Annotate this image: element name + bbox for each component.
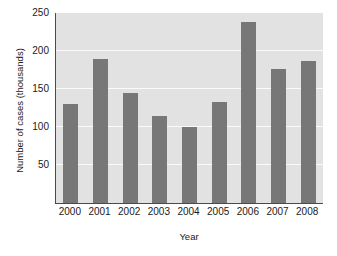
x-axis-tick-labels: 200020012002200320042005200620072008: [55, 206, 323, 222]
y-tick-label-100: 100: [32, 122, 49, 132]
bar-2003: [152, 116, 167, 203]
bar-2006: [241, 22, 256, 203]
x-tick-label-2006: 2006: [232, 206, 264, 217]
y-tick-label-150: 150: [32, 84, 49, 94]
x-tick-label-2001: 2001: [84, 206, 116, 217]
bar-2001: [93, 59, 108, 203]
y-tick-label-200: 200: [32, 46, 49, 56]
x-tick-label-2003: 2003: [143, 206, 175, 217]
x-tick-label-2007: 2007: [262, 206, 294, 217]
x-tick-label-2002: 2002: [113, 206, 145, 217]
bar-2008: [301, 61, 316, 203]
bar-2004: [182, 127, 197, 203]
bar-2002: [123, 93, 138, 203]
x-axis-title: Year: [55, 231, 323, 242]
gridline-200: [56, 50, 323, 51]
bar-2000: [63, 104, 78, 203]
x-tick-label-2000: 2000: [54, 206, 86, 217]
plot-area: [55, 13, 323, 204]
x-tick-label-2005: 2005: [202, 206, 234, 217]
x-tick-label-2008: 2008: [291, 206, 323, 217]
y-tick-label-250: 250: [32, 8, 49, 18]
bar-2007: [271, 69, 286, 203]
bar-2005: [212, 102, 227, 203]
y-tick-label-50: 50: [38, 160, 49, 170]
y-axis-tick-labels: 50100150200250: [0, 0, 53, 256]
bar-chart-figure: Number of cases (thousands) 501001502002…: [0, 0, 337, 256]
x-tick-label-2004: 2004: [173, 206, 205, 217]
